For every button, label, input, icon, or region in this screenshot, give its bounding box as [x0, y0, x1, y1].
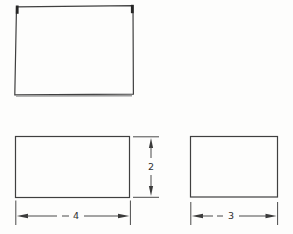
width4-dimension-label: 4 — [73, 210, 79, 221]
width-dimension-3: 3 — [191, 202, 278, 225]
width3-dimension-label: 3 — [228, 210, 234, 221]
left-arrowhead-icon — [192, 214, 203, 218]
height-dimension-label: 2 — [148, 161, 154, 172]
right-arrowhead-icon — [266, 214, 277, 218]
bottom-right-rectangle-outline — [191, 137, 278, 198]
bottom-left-rectangle-outline — [16, 137, 130, 198]
width-dimension-4: 4 — [16, 201, 131, 226]
bottom-right-rectangle — [191, 137, 278, 198]
left-arrowhead-icon — [17, 214, 28, 218]
right-arrowhead-icon — [118, 214, 129, 218]
dimensioned-rectangles-diagram: 2 4 3 — [0, 0, 293, 234]
bottom-left-rectangle — [16, 137, 130, 198]
figure-canvas: 2 4 3 — [0, 0, 293, 234]
top-rectangle — [15, 5, 134, 96]
height-dimension-2: 2 — [133, 137, 159, 198]
top-rectangle-outline — [15, 6, 134, 95]
up-arrowhead-icon — [149, 138, 153, 148]
down-arrowhead-icon — [149, 186, 153, 196]
